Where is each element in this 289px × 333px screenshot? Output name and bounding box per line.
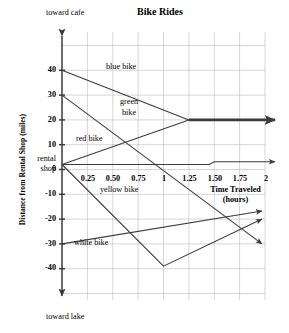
origin-note-line2: shop — [6, 164, 56, 174]
x-axis-title-units: (hours) — [188, 195, 283, 204]
y-tick-label-30: 30 — [36, 90, 56, 99]
x-tick-label-1: 1 — [155, 174, 173, 183]
chart-gridlines — [62, 32, 265, 300]
y-tick-label-minus40: -40 — [30, 263, 56, 272]
series-label-white-bike: white bike — [74, 238, 108, 247]
series-line-flat-baseline — [62, 162, 275, 165]
y-tick-label-40: 40 — [36, 65, 56, 74]
axis-note-toward-lake: toward lake — [46, 312, 84, 321]
chart-figure: Bike Rides toward cafe toward lake Dista… — [0, 0, 289, 333]
x-tick-label-1-50: 1.50 — [204, 174, 226, 183]
series-label-blue-bike: blue bike — [106, 62, 136, 71]
x-tick-label-0-50: 0.50 — [102, 174, 124, 183]
series-label-green-bike-line1: green — [120, 97, 138, 106]
y-tick-label-10: 10 — [36, 140, 56, 149]
origin-note: rental shop — [6, 154, 56, 173]
y-tick-label-minus30: -30 — [30, 239, 56, 248]
series-label-yellow-bike: yellow bike — [100, 185, 138, 194]
y-tick-label-minus20: -20 — [30, 214, 56, 223]
series-label-red-bike: red bike — [76, 134, 103, 143]
x-tick-label-1-75: 1.75 — [229, 174, 251, 183]
series-label-green-bike-line2: bike — [122, 108, 136, 117]
x-tick-label-0-75: 0.75 — [128, 174, 150, 183]
origin-note-line1: rental — [6, 154, 56, 164]
x-tick-label-2: 2 — [257, 174, 275, 183]
y-tick-label-20: 20 — [36, 115, 56, 124]
x-axis-title: Time Traveled — [188, 185, 283, 194]
x-tick-label-0-25: 0.25 — [77, 174, 99, 183]
axis-note-toward-cafe: toward cafe — [46, 8, 84, 17]
x-tick-label-1-25: 1.25 — [179, 174, 201, 183]
y-tick-label-minus10: -10 — [30, 189, 56, 198]
chart-title: Bike Rides — [137, 6, 183, 17]
